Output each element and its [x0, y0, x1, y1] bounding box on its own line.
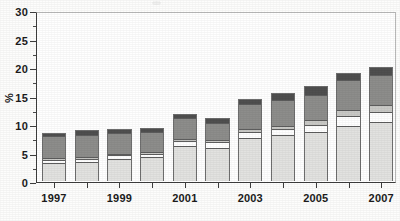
bar-2007	[369, 67, 393, 181]
bar-2004	[271, 93, 295, 181]
x-axis-tick	[218, 183, 219, 188]
x-axis-tick	[381, 183, 382, 188]
x-axis-tick	[250, 183, 251, 188]
bar-1999	[107, 129, 131, 181]
bar-segment-segment-1	[239, 139, 261, 181]
bars-layer	[38, 12, 396, 181]
bar-1997	[42, 133, 66, 181]
x-axis-label: 1997	[41, 192, 66, 204]
bar-segment-segment-1	[305, 133, 327, 181]
y-axis-tick-minor	[33, 83, 37, 84]
bar-2006	[336, 73, 360, 181]
y-axis-label: 15	[15, 92, 28, 104]
y-axis-tick-minor	[33, 169, 37, 170]
bar-segment-segment-1	[337, 127, 359, 182]
y-axis-label: 5	[22, 149, 28, 161]
y-axis-tick-major	[30, 69, 36, 70]
bar-segment-segment-1	[272, 136, 294, 181]
x-axis-tick	[316, 183, 317, 188]
x-axis-label: 2001	[172, 192, 197, 204]
x-axis-label: 2005	[303, 192, 328, 204]
bar-2003	[238, 99, 262, 182]
x-axis-label: 2007	[369, 192, 394, 204]
bar-segment-segment-4	[174, 119, 196, 140]
x-axis-tick	[54, 183, 55, 188]
x-axis-tick	[349, 183, 350, 188]
y-axis-tick-minor	[33, 140, 37, 141]
bar-2005	[304, 86, 328, 182]
bar-segment-segment-4	[108, 134, 130, 154]
bar-segment-segment-1	[174, 147, 196, 181]
bar-1998	[75, 130, 99, 181]
plot-area: 051015202530 199719992001200320052007	[36, 12, 396, 183]
x-axis-label: 1999	[107, 192, 132, 204]
bar-segment-segment-4	[76, 136, 98, 158]
y-axis-label: 30	[15, 6, 28, 18]
y-axis-tick-major	[30, 98, 36, 99]
y-axis-title: %	[3, 93, 15, 103]
bar-segment-segment-4	[206, 124, 228, 141]
y-axis-tick-major	[30, 155, 36, 156]
bar-segment-segment-1	[370, 123, 392, 181]
y-axis-tick-minor	[33, 26, 37, 27]
scan-artifact	[152, 1, 161, 5]
bar-2000	[140, 128, 164, 182]
y-axis-label: 10	[15, 120, 28, 132]
x-axis-tick	[87, 183, 88, 188]
bar-segment-segment-4	[43, 137, 65, 159]
y-axis-tick-minor	[33, 55, 37, 56]
bar-segment-segment-2	[305, 126, 327, 134]
bar-segment-segment-4	[305, 96, 327, 121]
x-axis-label: 2003	[238, 192, 263, 204]
bar-segment-segment-5	[305, 87, 327, 96]
bar-segment-segment-4	[239, 105, 261, 130]
bar-segment-segment-5	[337, 74, 359, 81]
bar-segment-segment-5	[272, 94, 294, 101]
bar-segment-segment-2	[337, 117, 359, 127]
bar-segment-segment-4	[272, 101, 294, 126]
bar-2002	[205, 118, 229, 181]
y-axis-tick-major	[30, 183, 36, 184]
bar-segment-segment-2	[370, 113, 392, 123]
y-axis-label: 0	[22, 177, 28, 189]
y-axis-label: 20	[15, 63, 28, 75]
bar-segment-segment-1	[206, 149, 228, 181]
x-axis-tick	[152, 183, 153, 188]
y-axis-tick-major	[30, 126, 36, 127]
bar-segment-segment-1	[108, 160, 130, 182]
bar-2001	[173, 114, 197, 182]
bar-segment-segment-1	[141, 158, 163, 181]
y-axis-label: 25	[15, 35, 28, 47]
bar-segment-segment-1	[43, 164, 65, 181]
y-axis-tick-major	[30, 12, 36, 13]
x-axis-tick	[185, 183, 186, 188]
bar-segment-segment-1	[76, 163, 98, 181]
y-axis-tick-major	[30, 41, 36, 42]
bar-segment-segment-4	[141, 133, 163, 153]
y-axis-tick-minor	[33, 112, 37, 113]
stacked-bar-chart: % 051015202530 199719992001200320052007	[0, 0, 400, 221]
bar-segment-segment-5	[370, 68, 392, 76]
bar-segment-segment-4	[337, 81, 359, 111]
bar-segment-segment-3	[370, 106, 392, 113]
x-axis-tick	[283, 183, 284, 188]
x-axis-tick	[119, 183, 120, 188]
bar-segment-segment-4	[370, 76, 392, 106]
